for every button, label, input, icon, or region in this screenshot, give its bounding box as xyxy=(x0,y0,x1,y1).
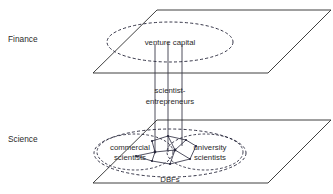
network-node xyxy=(167,135,169,137)
network-node xyxy=(189,158,191,160)
finance-plane-outline xyxy=(93,10,331,73)
scientist-entrepreneurs-label-line2: entrepreneurs xyxy=(146,97,195,106)
network-link xyxy=(168,136,175,150)
network-node xyxy=(185,139,187,141)
diagram-canvas: Finance venture capital scientist- entre… xyxy=(0,0,333,194)
network-node xyxy=(174,149,177,152)
network-node xyxy=(195,145,197,147)
network-node xyxy=(151,140,153,142)
university-scientists-label-line1: university xyxy=(194,143,227,152)
science-plane-label: Science xyxy=(8,134,38,144)
finance-plane-label: Finance xyxy=(8,34,38,44)
network-node xyxy=(154,151,157,154)
network-link xyxy=(170,150,175,164)
network-node xyxy=(135,155,137,157)
university-scientists-label-line2: scientists xyxy=(194,153,226,162)
network-link xyxy=(152,136,168,141)
network-link xyxy=(152,152,155,161)
dbfs-label: DBFs xyxy=(160,175,180,184)
commercial-scientists-label-line1: commercial xyxy=(110,143,150,152)
network-link xyxy=(155,150,175,152)
three-plane-diagram: Finance venture capital scientist- entre… xyxy=(0,0,333,194)
network-node xyxy=(169,163,171,165)
network-node xyxy=(151,160,153,162)
venture-capital-label: venture capital xyxy=(145,38,196,47)
scientist-entrepreneurs-label-line1: scientist- xyxy=(155,86,186,95)
network-link xyxy=(175,150,190,159)
network-link xyxy=(175,140,186,150)
venture-capital-region-group: venture capital xyxy=(107,22,233,62)
center-label-group: scientist- entrepreneurs xyxy=(146,86,195,106)
